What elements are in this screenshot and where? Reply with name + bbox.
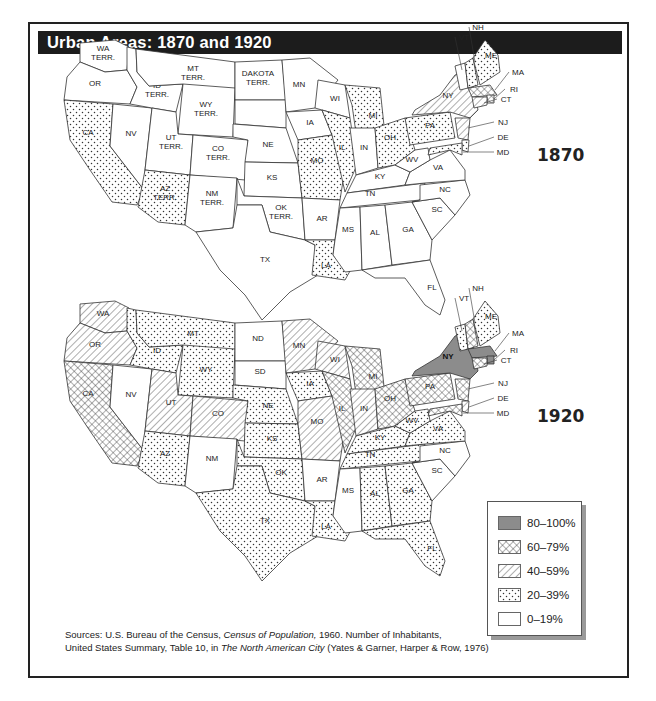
callout-label-md: MD	[497, 148, 510, 157]
state-label: NC	[439, 185, 451, 194]
legend: 80–100% 60–79% 40–59% 20–39% 0–19%	[487, 501, 582, 636]
callout-label-ri: RI	[510, 85, 518, 94]
callout-line	[468, 383, 494, 389]
legend-swatch-solid-gray	[498, 516, 521, 530]
year-label-1870: 1870	[537, 145, 584, 165]
callout-label-ct: CT	[501, 95, 512, 104]
state-label: OK	[275, 468, 287, 477]
state-label: GA	[402, 486, 414, 495]
callout-label-vt: VT	[459, 294, 469, 303]
sources-text: Sources: U.S. Bureau of the Census,	[65, 629, 223, 640]
state-label: SC	[431, 466, 442, 475]
legend-item-40-59: 40–59%	[498, 564, 569, 578]
state-label: SD	[254, 367, 265, 376]
state-label: VA	[433, 163, 444, 172]
state-label: OH	[384, 133, 396, 142]
state-label: NE	[262, 140, 273, 149]
state-nm	[185, 436, 237, 493]
state-label: OK	[275, 203, 287, 212]
legend-swatch-crosshatch	[498, 540, 521, 554]
state-label: OH	[384, 394, 396, 403]
state-label: KS	[267, 173, 278, 182]
legend-item-20-39: 20–39%	[498, 588, 569, 602]
state-label: TERR.	[153, 193, 177, 202]
state-label: IN	[360, 404, 368, 413]
state-label: NC	[439, 446, 451, 455]
state-label: SC	[431, 205, 442, 214]
callout-line	[469, 137, 494, 146]
state-label: CA	[82, 128, 94, 137]
state-label: AZ	[160, 184, 170, 193]
callout-label-nj: NJ	[498, 118, 508, 127]
callout-line	[495, 72, 509, 90]
state-label: MO	[311, 417, 324, 426]
callout-label-vt: VT	[459, 33, 469, 42]
state-label: MI	[369, 372, 378, 381]
state-label: IL	[339, 143, 346, 152]
state-label: OR	[89, 79, 101, 88]
state-label: NM	[206, 454, 219, 463]
legend-item-60-79: 60–79%	[498, 540, 569, 554]
callout-line	[495, 333, 509, 351]
state-label: AR	[316, 475, 327, 484]
state-label: GA	[402, 225, 414, 234]
sources-text: (Yates & Garner, Harper & Row, 1976)	[325, 642, 489, 653]
state-label: LA	[321, 522, 331, 531]
legend-label: 80–100%	[527, 517, 576, 529]
state-de	[462, 401, 469, 413]
state-label: NY	[442, 91, 454, 100]
state-label: TN	[365, 189, 376, 198]
state-label: DAKOTA	[242, 69, 275, 78]
state-label: TERR.	[194, 109, 218, 118]
callout-label-ct: CT	[501, 356, 512, 365]
legend-item-80-100: 80–100%	[498, 516, 576, 530]
state-label: AZ	[160, 449, 170, 458]
callout-line	[469, 27, 475, 62]
state-label: MN	[293, 80, 306, 89]
state-label: VA	[433, 424, 444, 433]
sources-note: Sources: U.S. Bureau of the Census, Cens…	[65, 628, 489, 654]
state-label: WY	[200, 100, 214, 109]
state-label: MT	[187, 64, 199, 73]
callout-line	[469, 398, 494, 407]
state-label: FL	[427, 283, 437, 292]
state-label: ME	[485, 51, 497, 60]
callout-label-de: DE	[497, 133, 508, 142]
sources-text: 1960. Number of Inhabitants,	[316, 629, 441, 640]
state-label: OR	[89, 340, 101, 349]
state-label: PA	[425, 121, 436, 130]
state-label: CA	[82, 389, 94, 398]
state-label: TX	[260, 516, 271, 525]
state-label: KY	[375, 433, 386, 442]
state-label: WI	[330, 355, 340, 364]
state-label: MS	[342, 486, 354, 495]
legend-swatch-dots	[498, 588, 521, 602]
state-label: MT	[187, 329, 199, 338]
callout-line	[469, 288, 475, 323]
state-label: WV	[406, 416, 420, 425]
state-label: TX	[260, 255, 271, 264]
state-label: TERR.	[181, 73, 205, 82]
state-label: PA	[425, 382, 436, 391]
state-label: CO	[212, 144, 224, 153]
legend-label: 0–19%	[527, 613, 563, 625]
callout-label-nj: NJ	[498, 379, 508, 388]
state-de	[462, 140, 469, 152]
state-label: TERR.	[159, 142, 183, 151]
callout-label-nh: NH	[472, 23, 484, 32]
state-label: FL	[427, 544, 437, 553]
state-label: MS	[342, 225, 354, 234]
callout-label-ma: MA	[512, 329, 525, 338]
state-label: MN	[293, 341, 306, 350]
state-label: NE	[262, 401, 273, 410]
callout-label-de: DE	[497, 394, 508, 403]
state-label: UT	[166, 133, 177, 142]
callout-label-md: MD	[497, 409, 510, 418]
state-label: WY	[200, 365, 214, 374]
state-label: TERR.	[200, 198, 224, 207]
state-label: ID	[153, 346, 161, 355]
state-az	[138, 431, 190, 486]
state-label: WA	[97, 44, 110, 53]
legend-label: 40–59%	[527, 565, 569, 577]
callout-label-nh: NH	[472, 284, 484, 293]
